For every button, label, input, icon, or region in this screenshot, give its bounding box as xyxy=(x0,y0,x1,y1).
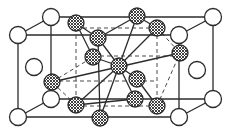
white-atom-corner-back-bottom-left xyxy=(43,91,60,108)
hatched-atom-bottom-front xyxy=(92,110,108,126)
hatched-atom-bottom-back xyxy=(127,91,143,107)
hatched-atoms xyxy=(44,8,188,126)
hatched-atom-mid-left-upper xyxy=(85,49,101,65)
hatched-atom-left-face-center xyxy=(44,74,60,90)
hatched-atom-mid-right-lower xyxy=(129,71,145,87)
hatched-atom-bottom-left xyxy=(68,97,84,113)
hatched-atom-top-back-right xyxy=(129,8,145,24)
hatched-atom-center xyxy=(111,58,127,74)
white-atom-corner-back-top-right xyxy=(205,9,222,26)
hatched-atom-bottom-right xyxy=(149,98,165,114)
white-atom-corner-front-bottom-left xyxy=(10,109,27,126)
crystal-lattice-diagram xyxy=(0,0,229,137)
hatched-atom-top-right xyxy=(149,20,165,36)
white-atom-corner-back-bottom-right xyxy=(205,91,222,108)
hatched-atom-top-front xyxy=(90,30,106,46)
white-atom-corner-front-top-right xyxy=(171,27,188,44)
hatched-atom-right-face-center xyxy=(172,45,188,61)
white-atom-face-left xyxy=(26,59,43,76)
white-atom-face-right xyxy=(189,62,206,79)
white-atom-corner-front-bottom-right xyxy=(171,109,188,126)
white-atom-corner-back-top-left xyxy=(43,9,60,26)
hatched-atom-top-back-left xyxy=(68,15,84,31)
dashed-bond-3 xyxy=(157,53,180,106)
white-atom-corner-front-top-left xyxy=(10,27,27,44)
